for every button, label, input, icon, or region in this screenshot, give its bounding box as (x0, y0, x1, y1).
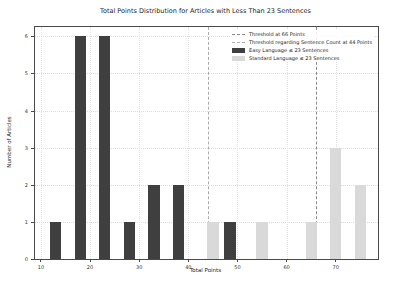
gridline-horizontal (35, 185, 378, 186)
bar-easy-language (148, 185, 159, 259)
y-tick-label: 5 (25, 70, 28, 76)
figure: Total Points Distribution for Articles w… (0, 0, 400, 287)
y-tick-label: 3 (25, 145, 28, 151)
gridline-horizontal (35, 148, 378, 149)
legend-label: Threshold at 66 Points (249, 31, 305, 37)
x-axis-label: Total Points (34, 267, 377, 273)
legend-label: Threshold regarding Sentence Count at 44… (249, 39, 372, 45)
threshold-line-legend-icon (232, 42, 245, 43)
y-tick-label: 0 (25, 256, 28, 262)
x-tick (139, 259, 140, 262)
gridline-vertical (41, 27, 42, 259)
bar-patch-legend-icon (232, 48, 245, 53)
legend-item: Easy Language ≤ 23 Sentences (232, 47, 372, 53)
x-tick (40, 259, 41, 262)
legend-label: Easy Language ≤ 23 Sentences (249, 47, 328, 53)
y-tick (31, 36, 34, 37)
y-tick (31, 148, 34, 149)
bar-standard-language (256, 222, 267, 259)
y-tick (31, 259, 34, 260)
gridline-horizontal (35, 111, 378, 112)
x-tick (188, 259, 189, 262)
y-tick (31, 111, 34, 112)
y-tick (31, 73, 34, 74)
y-tick-label: 2 (25, 182, 28, 188)
bar-easy-language (50, 222, 61, 259)
bar-standard-language (207, 222, 218, 259)
bar-patch-legend-icon (232, 56, 245, 61)
x-tick (286, 259, 287, 262)
y-tick (31, 185, 34, 186)
gridline-vertical (139, 27, 140, 259)
x-tick (90, 259, 91, 262)
y-axis-label: Number of Articles (6, 116, 12, 167)
legend-item: Threshold at 66 Points (232, 31, 372, 37)
bar-easy-language (75, 36, 86, 259)
bar-standard-language (306, 222, 317, 259)
gridline-horizontal (35, 73, 378, 74)
x-tick (335, 259, 336, 262)
bar-easy-language (173, 185, 184, 259)
y-tick-label: 1 (25, 219, 28, 225)
legend: Threshold at 66 PointsThreshold regardin… (230, 30, 374, 62)
y-tick-label: 4 (25, 108, 28, 114)
legend-label: Standard Language ≤ 23 Sentences (249, 55, 339, 61)
y-tick (31, 222, 34, 223)
chart-title: Total Points Distribution for Articles w… (34, 7, 377, 15)
bar-standard-language (355, 185, 366, 259)
legend-item: Threshold regarding Sentence Count at 44… (232, 39, 372, 45)
bar-easy-language (224, 222, 235, 259)
gridline-vertical (90, 27, 91, 259)
x-tick (237, 259, 238, 262)
bar-easy-language (99, 36, 110, 259)
plot-area: 102030405060700123456Threshold at 66 Poi… (34, 26, 379, 260)
bar-easy-language (124, 222, 135, 259)
threshold-line-legend-icon (232, 34, 245, 35)
y-tick-label: 6 (25, 33, 28, 39)
bar-standard-language (330, 148, 341, 259)
gridline-vertical (188, 27, 189, 259)
legend-item: Standard Language ≤ 23 Sentences (232, 55, 372, 61)
